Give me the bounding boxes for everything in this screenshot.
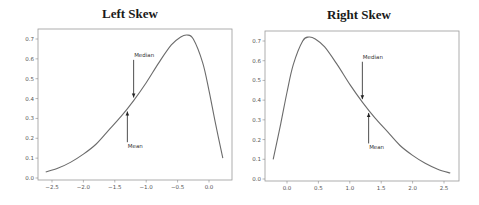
y-tick-label: 0.7 (252, 38, 261, 44)
x-tick-label: 2.0 (408, 185, 417, 191)
arrow-head-icon (132, 94, 136, 98)
x-tick-label: 0.0 (283, 185, 292, 191)
y-tick-label: 0.4 (25, 96, 34, 102)
x-tick-label: 0.0 (205, 184, 214, 190)
y-tick-label: 0.3 (25, 115, 34, 121)
y-tick-label: 0.2 (25, 135, 34, 141)
x-tick-label: 1.5 (377, 185, 386, 191)
median-annotation: Median (361, 54, 384, 99)
x-tick-label: 2.5 (440, 185, 449, 191)
mean-annotation: Mean (126, 111, 144, 149)
y-tick-label: 0.3 (252, 117, 261, 123)
y-tick-label: 0.2 (252, 137, 261, 143)
y-tick-label: 0.5 (25, 76, 34, 82)
annotation-label: Median (363, 54, 384, 60)
y-tick-label: 0.4 (252, 97, 261, 103)
x-tick-label: −2.5 (45, 184, 59, 190)
x-tick-label: −0.5 (171, 184, 185, 190)
y-tick-label: 0.6 (25, 56, 34, 62)
y-tick-label: 0.1 (25, 155, 34, 161)
annotation-label: Median (134, 52, 155, 58)
x-tick-label: −2.0 (77, 184, 91, 190)
annotation-label: Mean (128, 143, 143, 149)
x-tick-label: 1.0 (345, 185, 354, 191)
annotation-label: Mean (369, 144, 384, 150)
chart-title: Left Skew (102, 6, 159, 21)
y-tick-label: 0.0 (25, 175, 34, 181)
arrow-head-icon (126, 111, 130, 115)
y-tick-label: 0.5 (252, 77, 261, 83)
left-skew-chart: Left Skew−2.5−2.0−1.5−1.0−0.50.00.00.10.… (0, 0, 240, 205)
y-tick-label: 0.7 (25, 36, 34, 42)
x-tick-label: 0.5 (314, 185, 323, 191)
density-curve (273, 37, 450, 173)
right-skew-chart: Right Skew0.00.51.01.52.02.50.00.10.20.3… (240, 0, 479, 205)
arrow-head-icon (361, 95, 365, 99)
arrow-head-icon (367, 113, 371, 117)
left-skew-plot: Left Skew−2.5−2.0−1.5−1.0−0.50.00.00.10.… (0, 0, 240, 205)
y-tick-label: 0.6 (252, 58, 261, 64)
y-tick-label: 0.0 (252, 176, 261, 182)
x-tick-label: −1.5 (108, 184, 122, 190)
chart-title: Right Skew (327, 7, 392, 22)
x-tick-label: −1.0 (140, 184, 154, 190)
y-tick-label: 0.1 (252, 156, 261, 162)
right-skew-plot: Right Skew0.00.51.01.52.02.50.00.10.20.3… (240, 0, 479, 205)
